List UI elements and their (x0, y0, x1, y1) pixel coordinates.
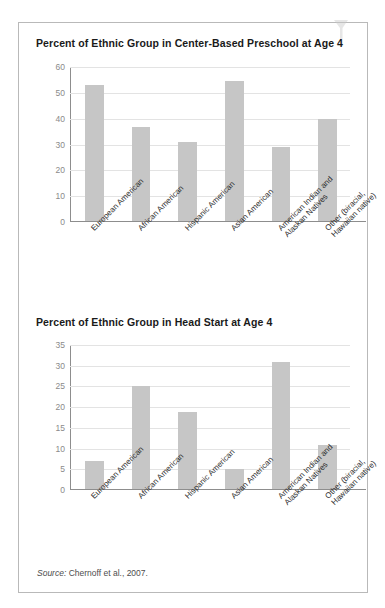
bar (85, 85, 104, 221)
y-tick-label: 0 (60, 485, 65, 495)
plot-area-bottom: 05101520253035 European AmericanAfrican … (70, 345, 350, 490)
bar (225, 81, 244, 221)
y-tick-label: 30 (56, 140, 65, 150)
bar (132, 127, 151, 221)
bar (132, 386, 151, 489)
y-tick-label: 20 (56, 165, 65, 175)
source-note: Source: Chernoff et al., 2007. (37, 568, 148, 578)
chart-title-bottom: Percent of Ethnic Group in Head Start at… (36, 316, 272, 328)
y-tick-label: 40 (56, 114, 65, 124)
y-tick-label: 0 (60, 217, 65, 227)
source-citation: Chernoff et al., 2007. (69, 568, 148, 578)
source-label: Source: (37, 568, 66, 578)
bar (272, 362, 291, 489)
y-tick-label: 5 (60, 464, 65, 474)
y-tick-label: 60 (56, 62, 65, 72)
plot-area-top: 0102030405060 European AmericanAfrican A… (70, 67, 350, 222)
y-tick-label: 35 (56, 340, 65, 350)
y-tick-label: 25 (56, 381, 65, 391)
y-tick-label: 20 (56, 402, 65, 412)
y-tick-label: 10 (56, 191, 65, 201)
y-tick-label: 50 (56, 88, 65, 98)
bar (178, 412, 197, 489)
figure-frame: Percent of Ethnic Group in Center-Based … (18, 22, 368, 593)
x-axis-line-top (70, 221, 366, 222)
chart-title-top: Percent of Ethnic Group in Center-Based … (36, 37, 343, 49)
bar (178, 142, 197, 221)
y-tick-label: 15 (56, 423, 65, 433)
bar (272, 147, 291, 221)
y-tick-label: 10 (56, 444, 65, 454)
y-tick-label: 30 (56, 361, 65, 371)
x-axis-line-bottom (70, 489, 366, 490)
